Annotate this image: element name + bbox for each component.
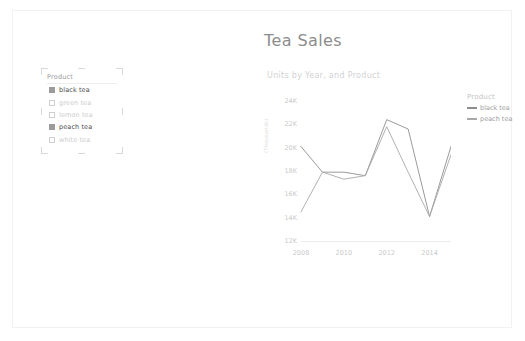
page-title: Tea Sales [228,31,378,50]
chart-title: Units by Year, and Product [267,71,380,80]
legend-items[interactable]: black teapeach tea [467,104,513,123]
line-chart-visual[interactable]: Units by Year, and Product (Thousands) 2… [261,71,511,276]
legend-item-black-tea[interactable]: black tea [467,104,513,112]
product-slicer[interactable]: Product black teagreen tealemon teapeach… [47,73,117,149]
chart-legend[interactable]: Product black teapeach tea [467,93,513,126]
series-line-black-tea [301,120,451,217]
series-line-peach-tea [301,127,451,217]
legend-title: Product [467,93,513,101]
report-canvas: Tea Sales Product black teagreen tealemo… [12,10,512,328]
slicer-resize-handles[interactable] [41,68,123,154]
series-lines [261,93,451,271]
legend-item-label: peach tea [480,115,512,123]
legend-line-swatch [467,118,477,120]
legend-line-swatch [467,107,477,109]
legend-item-label: black tea [480,104,510,112]
plot-area[interactable]: (Thousands) 24K22K20K18K16K14K12K 200820… [261,93,451,271]
legend-item-peach-tea[interactable]: peach tea [467,115,513,123]
